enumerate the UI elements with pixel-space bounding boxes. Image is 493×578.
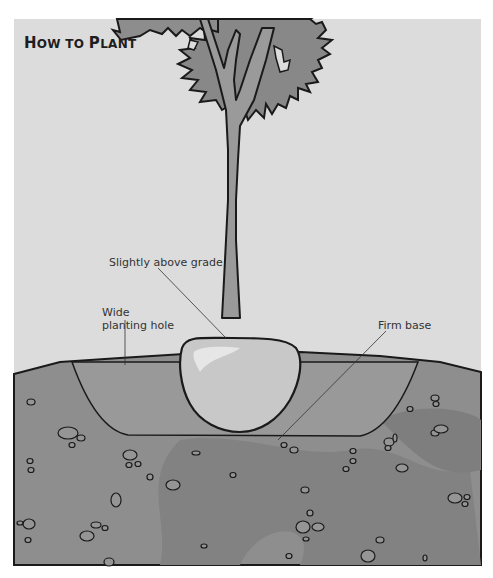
label-slightly-above-grade: Slightly above grade: [109, 256, 223, 269]
label-wide-planting-hole: Wide planting hole: [102, 306, 174, 332]
diagram-title: HOW TO PLANT: [24, 34, 137, 52]
label-firm-base: Firm base: [378, 319, 431, 332]
how-to-plant-diagram: HOW TO PLANT Slightly above grade Wide p…: [0, 0, 493, 578]
illustration: [0, 0, 493, 578]
